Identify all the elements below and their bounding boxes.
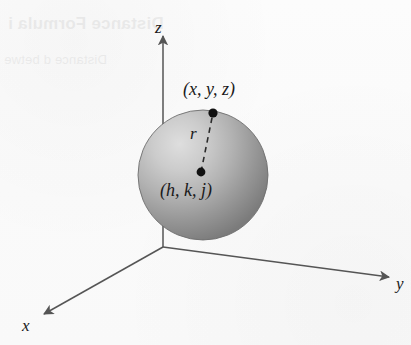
axis-label-x: x xyxy=(22,316,30,336)
axis-y xyxy=(163,247,389,277)
axis-label-z: z xyxy=(155,18,162,38)
radius-label: r xyxy=(190,124,197,144)
axis-x xyxy=(44,247,163,314)
point-marker-center xyxy=(197,168,206,177)
point-marker-surface xyxy=(208,108,217,117)
axis-label-y: y xyxy=(396,274,404,294)
point-label-surface: (x, y, z) xyxy=(183,79,235,100)
point-label-center: (h, k, j) xyxy=(160,180,212,201)
diagram-canvas xyxy=(0,0,411,345)
sphere-diagram-figure: Distance Formula i Distance d betwe xyxy=(0,0,411,345)
